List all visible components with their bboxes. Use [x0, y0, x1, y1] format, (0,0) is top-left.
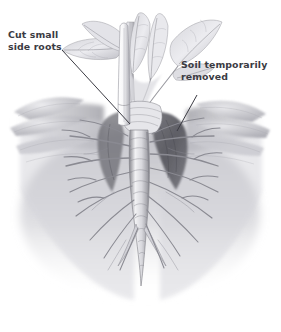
illustration-figure: Cut smallside roots Soil temporarilyremo…: [0, 0, 281, 332]
label-cut-side-roots-line2: side roots: [8, 41, 62, 52]
label-cut-side-roots: Cut smallside roots: [8, 29, 62, 52]
label-soil-removed-line2: removed: [181, 71, 228, 82]
knife-blade: [118, 23, 130, 126]
label-cut-side-roots-line1: Cut small: [8, 29, 58, 40]
label-soil-temporarily-removed: Soil temporarilyremoved: [181, 59, 267, 82]
label-soil-removed-line1: Soil temporarily: [181, 59, 267, 70]
